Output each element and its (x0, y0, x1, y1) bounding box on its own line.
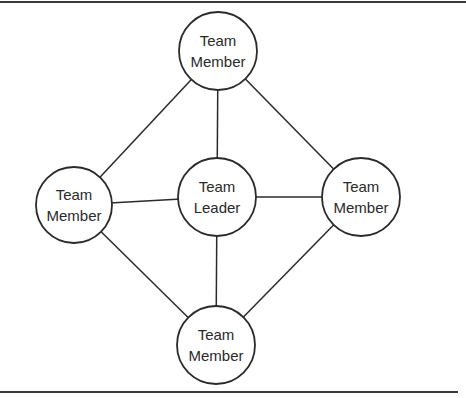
node-label-line: Member (333, 199, 388, 216)
node-member-top: TeamMember (179, 12, 257, 90)
node-label-line: Member (46, 207, 101, 224)
node-circle (322, 158, 400, 236)
node-member-bottom: TeamMember (177, 306, 255, 384)
node-label-line: Team (198, 326, 235, 343)
node-leader-center: TeamLeader (178, 158, 256, 236)
node-circle (36, 167, 112, 243)
node-label-line: Team (200, 32, 237, 49)
node-label-line: Team (343, 178, 380, 195)
node-label-line: Member (188, 347, 243, 364)
node-label-line: Team (56, 186, 93, 203)
node-circle (179, 12, 257, 90)
node-label-line: Leader (194, 199, 241, 216)
node-circle (178, 158, 256, 236)
team-nodes: TeamMemberTeamMemberTeamLeaderTeamMember… (36, 12, 400, 384)
node-circle (177, 306, 255, 384)
node-member-left: TeamMember (36, 167, 112, 243)
node-label-line: Team (199, 178, 236, 195)
team-network-diagram: TeamMemberTeamMemberTeamLeaderTeamMember… (0, 0, 466, 398)
node-label-line: Member (190, 53, 245, 70)
node-member-right: TeamMember (322, 158, 400, 236)
